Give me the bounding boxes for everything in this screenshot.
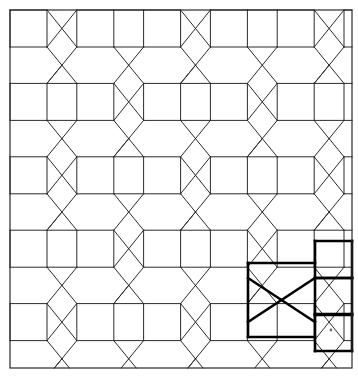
tile-edge: [322, 359, 330, 368]
tile-edge: [114, 267, 129, 285]
tile-edge: [262, 47, 277, 65]
tile-edge: [314, 194, 329, 212]
tessellation-figure: [0, 0, 358, 376]
tile-edge: [196, 47, 211, 65]
tile-edge: [196, 359, 204, 368]
tile-edge: [62, 267, 77, 285]
tile-edge: [262, 139, 277, 157]
tile-edge: [114, 285, 129, 303]
tile-edge: [129, 359, 137, 368]
tile-edge: [129, 212, 144, 230]
tile-edge: [114, 65, 129, 83]
tile-edge: [181, 65, 196, 83]
tile-edge: [262, 194, 277, 212]
tile-edge: [181, 47, 196, 65]
tile-edge: [181, 194, 196, 212]
tile-edge: [47, 212, 62, 230]
tile-edge: [329, 139, 344, 157]
tile-edge: [329, 47, 344, 65]
tile-edge: [54, 359, 62, 368]
tile-edge: [62, 212, 77, 230]
tile-edge: [329, 65, 344, 83]
tile-edge: [114, 139, 129, 157]
tile-edge: [262, 120, 277, 138]
tile-edge: [314, 139, 329, 157]
tile-edge: [47, 285, 62, 303]
tile-edge: [114, 47, 129, 65]
tile-edge: [262, 341, 277, 359]
tile-edge: [329, 267, 344, 285]
tile-edge: [181, 212, 196, 230]
tiling-thin-lines: [10, 10, 352, 368]
tile-edge: [314, 120, 329, 138]
tile-edge: [314, 65, 329, 83]
tile-edge: [47, 267, 62, 285]
tile-edge: [114, 212, 129, 230]
tile-edge: [121, 359, 129, 368]
tile-edge: [114, 341, 129, 359]
tile-edge: [247, 139, 262, 157]
tile-edge: [247, 120, 262, 138]
tile-edge: [129, 139, 144, 157]
tile-edge: [247, 47, 262, 65]
tile-edge: [62, 194, 77, 212]
tile-edge: [196, 341, 211, 359]
tile-edge: [62, 120, 77, 138]
tile-edge: [247, 194, 262, 212]
tile-edge: [181, 285, 196, 303]
tile-edge: [62, 285, 77, 303]
tiling-svg: [0, 0, 358, 376]
tile-edge: [314, 285, 329, 303]
tile-edge: [329, 359, 337, 368]
tile-edge: [47, 120, 62, 138]
tile-edge: [114, 120, 129, 138]
tile-edge: [47, 194, 62, 212]
tile-edge: [196, 267, 211, 285]
tile-edge: [129, 47, 144, 65]
tile-edge: [62, 65, 77, 83]
tile-edge: [47, 47, 62, 65]
tile-edge: [188, 359, 196, 368]
tile-edge: [314, 212, 329, 230]
tile-edge: [181, 139, 196, 157]
tile-edge: [329, 194, 344, 212]
tile-edge: [129, 285, 144, 303]
tile-edge: [196, 139, 211, 157]
tiling-highlight-unit: [248, 241, 352, 351]
tile-edge: [196, 120, 211, 138]
tile-edge: [47, 341, 62, 359]
reference-dot: [330, 329, 333, 332]
tile-edge: [62, 139, 77, 157]
tile-edge: [255, 359, 263, 368]
tile-edge: [62, 341, 77, 359]
tile-edge: [47, 139, 62, 157]
tile-edge: [62, 47, 77, 65]
tile-edge: [247, 341, 262, 359]
tile-edge: [196, 212, 211, 230]
tile-edge: [181, 120, 196, 138]
tile-edge: [129, 267, 144, 285]
tile-edge: [129, 120, 144, 138]
tile-edge: [196, 65, 211, 83]
tile-edge: [247, 212, 262, 230]
tile-edge: [329, 285, 344, 303]
tile-edge: [62, 359, 70, 368]
tile-edge: [129, 194, 144, 212]
tile-edge: [314, 47, 329, 65]
tile-edge: [329, 212, 344, 230]
tile-edge: [181, 267, 196, 285]
tile-edge: [314, 267, 329, 285]
tile-edge: [129, 341, 144, 359]
tile-edge: [247, 285, 262, 303]
tile-edge: [262, 212, 277, 230]
tile-edge: [329, 120, 344, 138]
tile-edge: [247, 65, 262, 83]
tile-edge: [196, 285, 211, 303]
tile-edge: [47, 65, 62, 83]
tile-edge: [262, 267, 277, 285]
tile-edge: [129, 65, 144, 83]
tile-edge: [114, 194, 129, 212]
tile-edge: [262, 65, 277, 83]
tile-edge: [262, 359, 270, 368]
tile-edge: [196, 194, 211, 212]
